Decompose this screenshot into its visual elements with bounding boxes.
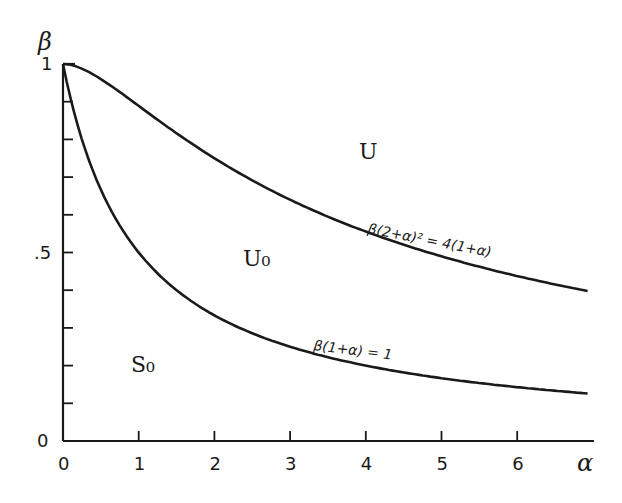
y-minor-ticks (63, 102, 73, 404)
y-tick-label-0: 0 (37, 430, 48, 451)
x-tick-label: 0 (58, 453, 69, 474)
y-tick-label-half: .5 (34, 242, 51, 263)
x-axis-label: α (577, 449, 593, 477)
axes (63, 64, 594, 441)
region-label-s0: S₀ (131, 352, 155, 377)
x-ticks (139, 431, 518, 441)
region-label-u0: U₀ (243, 246, 271, 271)
region-label-u: U (359, 139, 378, 164)
x-tick-label: 5 (437, 453, 448, 474)
x-tick-labels: 0123456 (58, 453, 524, 474)
y-axis-label: β (37, 28, 52, 56)
x-tick-label: 1 (134, 453, 145, 474)
x-tick-label: 3 (285, 453, 296, 474)
x-tick-label: 6 (512, 453, 523, 474)
lower-curve-equation: β(1+α) = 1 (312, 337, 394, 363)
x-tick-label: 4 (361, 453, 372, 474)
y-tick-label-1: 1 (41, 53, 52, 74)
x-tick-label: 2 (209, 453, 220, 474)
stability-chart: 1 .5 0 0123456 β α U U₀ S₀ β(2+α)² = 4(1… (0, 0, 622, 503)
